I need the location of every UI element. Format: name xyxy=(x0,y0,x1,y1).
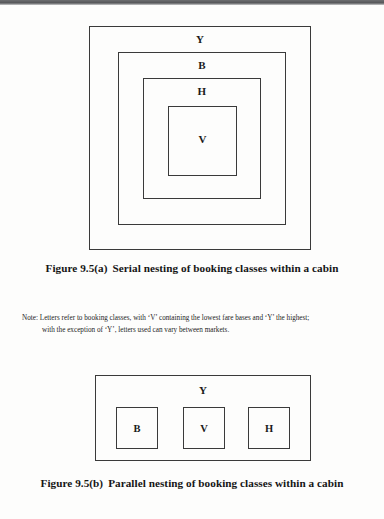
booking-class-box-v: V xyxy=(183,407,225,449)
figure-9-5-b-caption-number: Figure 9.5(b) xyxy=(41,477,104,489)
booking-class-box-b: B xyxy=(116,407,158,449)
scanned-book-page: Y B H V Figure 9.5(a)Serial nesting of b… xyxy=(0,0,384,519)
figure-9-5-b: Y B V H xyxy=(0,0,384,519)
booking-class-box-h: H xyxy=(248,407,290,449)
booking-class-label-b: B xyxy=(117,423,157,434)
figure-9-5-b-caption: Figure 9.5(b)Parallel nesting of booking… xyxy=(0,476,384,490)
booking-class-label-y: Y xyxy=(96,385,310,396)
booking-class-label-v: V xyxy=(184,423,224,434)
figure-9-5-b-caption-text: Parallel nesting of booking classes with… xyxy=(108,477,343,489)
booking-class-label-h: H xyxy=(249,423,289,434)
